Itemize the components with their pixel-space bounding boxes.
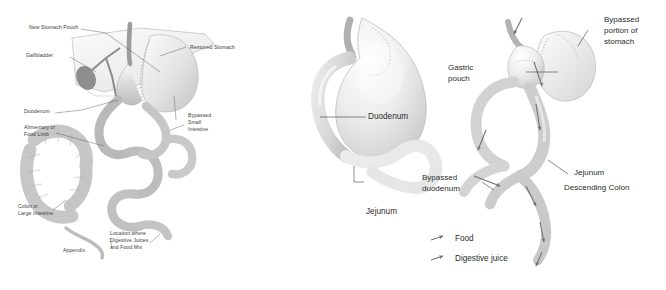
illustration-canvas: New Stomach Pouch Gallbladder Duodenum A… (0, 0, 666, 290)
label-alimentary-limb: Alimentary or Food Limb (24, 124, 55, 138)
label-duodenum: Duodenum (24, 108, 50, 115)
legend-item-digestive-juice: Digestive juice (430, 248, 508, 268)
bypassed-stomach-shape (537, 31, 596, 101)
label-duodenum-mid: Duodenum (368, 111, 408, 122)
jejunum-right-shape (520, 176, 544, 216)
arrow-icon (430, 253, 452, 263)
legend-label-food: Food (455, 234, 474, 243)
label-appendix: Appendix (63, 247, 85, 254)
legend-item-food: Food (430, 228, 508, 248)
panel-post-bypass-overview: New Stomach Pouch Gallbladder Duodenum A… (0, 0, 290, 290)
label-new-stomach-pouch: New Stomach Pouch (29, 24, 78, 31)
roux-limb-shape (520, 88, 544, 176)
label-removed-stomach: Removed Stomach (190, 44, 235, 51)
label-gallbladder: Gallbladder (26, 52, 53, 59)
label-bypassed-duodenum: Bypassed duodenum (422, 172, 460, 194)
flow-legend: Food Digestive juice (430, 228, 508, 268)
label-jejunum-right: Jejunum (574, 167, 604, 178)
label-bypassed-small-intestine: Bypassed Small Intestine (188, 112, 211, 134)
arrow-icon (430, 233, 452, 243)
label-gastric-pouch: Gastric pouch (448, 62, 473, 84)
label-mixing-point: Location where Digestive Juices and Food… (110, 230, 148, 252)
label-jejunum-mid: Jejunum (366, 206, 397, 217)
descending-colon-shape (538, 216, 546, 260)
label-bypassed-portion-of-stomach: Bypassed portion of stomach (604, 14, 639, 47)
label-descending-colon: Descending Colon (564, 182, 629, 193)
bypassed-duodenum-shape (476, 82, 514, 166)
label-colon: Colon or Large Intestine (18, 203, 53, 217)
legend-label-digestive-juice: Digestive juice (455, 254, 508, 263)
